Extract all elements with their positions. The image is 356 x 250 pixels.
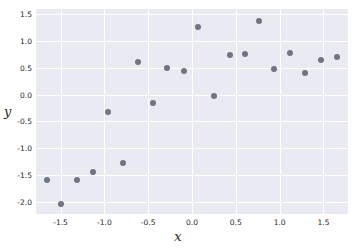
gridline-vertical: [192, 9, 193, 214]
data-point: [302, 70, 308, 76]
x-tick-label: 1.5: [317, 218, 329, 227]
y-tick-label: 0.5: [12, 63, 32, 72]
plot-area: [36, 9, 348, 214]
gridline-vertical: [280, 9, 281, 214]
gridline-horizontal: [36, 175, 348, 176]
data-point: [74, 177, 80, 183]
data-point: [120, 160, 126, 166]
y-tick-label: -1.5: [12, 170, 32, 179]
y-tick-label: 1.5: [12, 10, 32, 19]
y-tick-label: -0.5: [12, 117, 32, 126]
data-point: [150, 100, 156, 106]
scatter-plot-figure: -1.5-1.0-0.50.00.51.01.5 1.51.00.50.0-0.…: [0, 0, 356, 250]
data-point: [227, 52, 233, 58]
gridline-horizontal: [36, 202, 348, 203]
y-tick-label: -2.0: [12, 197, 32, 206]
gridline-horizontal: [36, 68, 348, 69]
x-tick-label: 1.0: [274, 218, 286, 227]
gridline-vertical: [148, 9, 149, 214]
data-point: [58, 201, 64, 207]
data-point: [318, 57, 324, 63]
data-point: [105, 109, 111, 115]
data-point: [164, 65, 170, 71]
data-point: [256, 18, 262, 24]
gridline-horizontal: [36, 41, 348, 42]
data-point: [287, 50, 293, 56]
gridline-horizontal: [36, 121, 348, 122]
data-point: [135, 59, 141, 65]
data-point: [211, 93, 217, 99]
y-tick-label: 0.0: [12, 90, 32, 99]
data-point: [44, 177, 50, 183]
y-tick-label: 1.0: [12, 37, 32, 46]
x-axis-title: x: [0, 229, 356, 244]
data-point: [181, 68, 187, 74]
x-tick-label: -1.5: [53, 218, 68, 227]
data-point: [271, 66, 277, 72]
gridline-vertical: [61, 9, 62, 214]
gridline-vertical: [323, 9, 324, 214]
y-tick-label: -1.0: [12, 144, 32, 153]
y-axis-title: y: [4, 104, 11, 119]
data-point: [90, 169, 96, 175]
gridline-horizontal: [36, 14, 348, 15]
x-tick-label: -0.5: [141, 218, 156, 227]
data-point: [242, 51, 248, 57]
gridline-horizontal: [36, 148, 348, 149]
data-point: [334, 54, 340, 60]
gridline-vertical: [236, 9, 237, 214]
data-point: [195, 24, 201, 30]
x-tick-label: 0.0: [186, 218, 198, 227]
gridline-horizontal: [36, 95, 348, 96]
x-tick-label: -1.0: [97, 218, 112, 227]
x-tick-label: 0.5: [230, 218, 242, 227]
